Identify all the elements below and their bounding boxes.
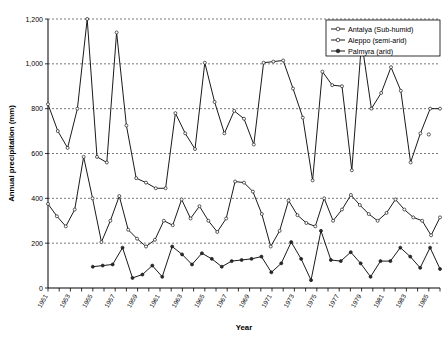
series-2-point-1 — [101, 264, 104, 267]
series-2-point-12 — [210, 257, 213, 260]
ytick-label-1200: 1,200 — [25, 16, 43, 23]
series-1-point-27 — [287, 199, 290, 202]
series-2-point-23 — [319, 229, 322, 232]
series-0-point-39 — [429, 107, 432, 110]
series-1-point-17 — [198, 205, 201, 208]
series-0-point-14 — [184, 132, 187, 135]
xtick-label-1967: 1967 — [215, 293, 228, 309]
series-2-point-0 — [91, 265, 94, 268]
series-0-point-26 — [301, 116, 304, 119]
legend-label-2: Palmyra (arid) — [348, 47, 393, 56]
ytick-label-1000: 1,000 — [25, 60, 43, 67]
ytick-label-200: 200 — [31, 240, 43, 247]
series-1-point-33 — [341, 208, 344, 211]
legend-marker-0 — [336, 27, 340, 31]
series-1-point-2 — [64, 225, 67, 228]
series-1-point-25 — [269, 245, 272, 248]
series-0-point-24 — [282, 59, 285, 62]
series-0-point-31 — [350, 169, 353, 172]
series-2-point-26 — [349, 251, 352, 254]
series-2-point-19 — [280, 262, 283, 265]
series-1-point-32 — [332, 219, 335, 222]
series-0-point-22 — [262, 61, 265, 64]
ytick-label-600: 600 — [31, 150, 43, 157]
series-2-point-13 — [220, 265, 223, 268]
series-1-point-13 — [162, 219, 165, 222]
series-2-point-6 — [151, 264, 154, 267]
series-0-point-23 — [272, 60, 275, 63]
series-1-point-38 — [385, 211, 388, 214]
series-0-point-9 — [135, 177, 138, 180]
legend-marker-2 — [336, 49, 340, 53]
precipitation-line-chart: 02004006008001,0001,20019511953195519571… — [0, 0, 447, 338]
series-1-point-30 — [314, 225, 317, 228]
series-2-point-10 — [191, 263, 194, 266]
series-1-point-44 — [439, 216, 442, 219]
series-1-point-22 — [243, 181, 246, 184]
series-0-point-27 — [311, 179, 314, 182]
series-1-point-11 — [145, 245, 148, 248]
series-line-1 — [48, 157, 440, 247]
xtick-label-1973: 1973 — [282, 293, 295, 309]
xtick-label-1985: 1985 — [416, 293, 429, 309]
series-1-point-24 — [260, 213, 263, 216]
series-2-point-25 — [339, 260, 342, 263]
series-1-point-34 — [349, 193, 352, 196]
series-2-point-5 — [141, 273, 144, 276]
plot-area: 02004006008001,0001,20019511953195519571… — [0, 0, 447, 338]
series-0-point-5 — [96, 155, 99, 158]
series-2-point-8 — [171, 245, 174, 248]
xtick-label-1971: 1971 — [260, 293, 273, 309]
series-0-point-16 — [203, 61, 206, 64]
y-axis-title: Annual precipitation (mm) — [7, 105, 16, 202]
series-1-point-9 — [127, 228, 130, 231]
series-1-point-37 — [376, 219, 379, 222]
series-0-point-10 — [145, 181, 148, 184]
series-2-point-3 — [121, 246, 124, 249]
series-1-point-29 — [305, 221, 308, 224]
series-0-point-11 — [154, 187, 157, 190]
series-0-point-6 — [105, 161, 108, 164]
series-0-point-21 — [252, 143, 255, 146]
series-0-point-33 — [370, 107, 373, 110]
series-1-point-31 — [323, 197, 326, 200]
series-2-point-20 — [290, 241, 293, 244]
series-1-point-6 — [100, 241, 103, 244]
series-2-point-18 — [270, 271, 273, 274]
series-1-point-26 — [278, 229, 281, 232]
series-1-point-12 — [153, 238, 156, 241]
xtick-label-1963: 1963 — [170, 293, 183, 309]
xtick-label-1961: 1961 — [148, 293, 161, 309]
series-0-point-40 — [439, 107, 442, 110]
xtick-label-1955: 1955 — [80, 293, 93, 309]
series-2-point-16 — [250, 257, 253, 260]
series-0-point-17 — [213, 100, 216, 103]
series-0-point-38 — [419, 132, 422, 135]
series-2-point-22 — [310, 279, 313, 282]
series-0-point-18 — [223, 132, 226, 135]
series-0-point-15 — [194, 148, 197, 151]
series-2-point-35 — [439, 267, 442, 270]
series-0-point-8 — [125, 124, 128, 127]
series-1-point-4 — [82, 155, 85, 158]
series-1-point-7 — [109, 219, 112, 222]
series-1-point-43 — [430, 234, 433, 237]
series-2-point-17 — [260, 255, 263, 258]
series-0-point-25 — [292, 87, 295, 90]
series-1-point-0 — [47, 202, 50, 205]
series-1-point-21 — [234, 180, 237, 183]
series-line-2 — [93, 231, 440, 280]
series-1-point-28 — [296, 214, 299, 217]
ytick-label-800: 800 — [31, 105, 43, 112]
series-0-point-0 — [47, 103, 50, 106]
series-1-point-10 — [136, 237, 139, 240]
series-0-point-1 — [56, 130, 59, 133]
series-0-point-37 — [409, 161, 412, 164]
ytick-label-400: 400 — [31, 195, 43, 202]
series-0-point-29 — [331, 84, 334, 87]
series-1-point-19 — [216, 230, 219, 233]
series-2-point-28 — [369, 275, 372, 278]
xtick-label-1957: 1957 — [103, 293, 116, 309]
series-1-point-16 — [189, 217, 192, 220]
series-0-point-19 — [233, 109, 236, 112]
